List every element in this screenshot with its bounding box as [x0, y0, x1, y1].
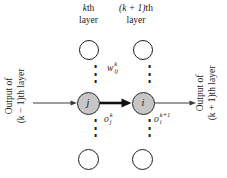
weight-scripts: k ij: [114, 61, 118, 74]
node-j: j: [77, 92, 100, 115]
output-arrow-head: [190, 101, 197, 106]
top-node-k1-layer: [133, 40, 153, 60]
upper-ellipsis-k1-layer: ⋮: [140, 63, 146, 85]
output-j-label: o k j: [104, 113, 113, 125]
upper-ellipsis-k-layer: ⋮: [86, 63, 92, 85]
neural-network-layer-diagram: kth layer (k + 1)th layer Output of (k −…: [0, 0, 227, 178]
lower-ellipsis-k-layer: ⋮: [86, 117, 92, 139]
bottom-node-k1-layer: [132, 149, 153, 170]
arrows-layer: [0, 0, 227, 178]
weight-label: w k ij: [107, 62, 118, 74]
weight-arrow-head: [122, 98, 132, 107]
output-j-sub: j: [110, 119, 113, 126]
node-i: i: [132, 92, 155, 115]
weight-sub: ij: [114, 68, 118, 75]
weight-base: w: [107, 63, 113, 74]
lower-ellipsis-k1-layer: ⋮: [140, 117, 146, 139]
bottom-node-k-layer: [78, 149, 99, 170]
node-i-label: i: [142, 98, 145, 108]
top-node-k-layer: [79, 40, 99, 60]
node-j-label: j: [87, 98, 90, 108]
output-i-scripts: k+1 i: [160, 112, 171, 125]
output-j-scripts: k j: [110, 112, 113, 125]
output-i-sub: i: [160, 119, 171, 126]
